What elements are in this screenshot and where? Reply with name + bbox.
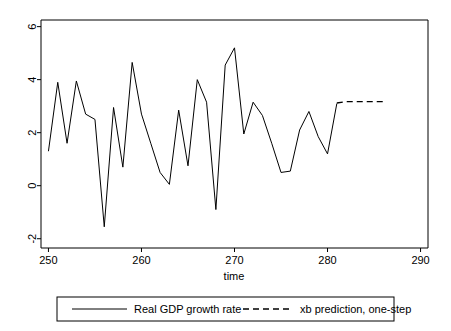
x-tick-label: 250 bbox=[39, 254, 57, 266]
x-tick-label: 260 bbox=[132, 254, 150, 266]
series-line-2 bbox=[337, 102, 384, 103]
y-axis: -20246 bbox=[26, 24, 41, 244]
chart-figure: -20246 250260270280290 time Real GDP gro… bbox=[0, 0, 451, 331]
y-tick-label: 0 bbox=[26, 183, 38, 189]
line-chart: -20246 250260270280290 time Real GDP gro… bbox=[0, 0, 451, 331]
legend-label-1: Real GDP growth rate bbox=[134, 303, 241, 315]
x-axis-title: time bbox=[224, 270, 245, 282]
x-tick-label: 280 bbox=[318, 254, 336, 266]
series-line-1 bbox=[48, 48, 336, 227]
chart-legend: Real GDP growth ratexb prediction, one-s… bbox=[57, 297, 411, 321]
y-tick-label: 2 bbox=[26, 130, 38, 136]
x-axis: 250260270280290 bbox=[39, 248, 429, 266]
series-group bbox=[48, 48, 383, 227]
x-tick-label: 270 bbox=[225, 254, 243, 266]
y-tick-label: 4 bbox=[26, 77, 38, 83]
y-tick-label: -2 bbox=[26, 234, 38, 244]
legend-label-2: xb prediction, one-step bbox=[300, 303, 411, 315]
x-tick-label: 290 bbox=[411, 254, 429, 266]
plot-frame bbox=[41, 20, 428, 248]
y-tick-label: 6 bbox=[26, 24, 38, 30]
